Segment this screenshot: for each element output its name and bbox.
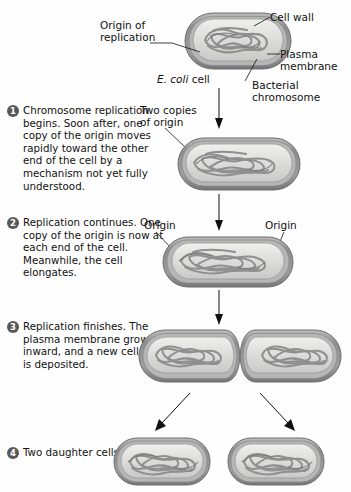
arrow-stage2-to-stage3 [212, 194, 226, 232]
label-ecoli-roman: cell [188, 73, 209, 85]
arrow-to-daughter-left [152, 392, 192, 434]
cell-daughter-right [226, 436, 326, 488]
cell-stage-3 [161, 234, 295, 290]
cell-stage-2 [176, 135, 302, 193]
label-bacterial-chromosome: Bacterial chromosome [252, 79, 320, 103]
leader-plasma-membrane [266, 50, 282, 58]
cell-daughter-left [112, 436, 212, 488]
step-2-number: 2 [7, 217, 19, 229]
label-plasma-membrane: Plasma membrane [280, 48, 337, 72]
step-2: 2 Replication continues. One copy of the… [7, 216, 167, 279]
step-4-number: 4 [7, 447, 19, 459]
leader-cell-wall [252, 15, 272, 29]
arrow-stage1-to-stage2 [212, 88, 226, 130]
leader-bacterial-chromosome [244, 57, 260, 83]
label-origin-right: Origin [265, 219, 297, 231]
leader-origin-of-replication [150, 40, 202, 54]
label-cell-wall: Cell wall [270, 11, 314, 23]
arrow-to-daughter-right [258, 392, 298, 434]
step-3-number: 3 [7, 321, 19, 333]
label-ecoli-cell: E. coli cell [157, 73, 210, 85]
step-1-number: 1 [7, 105, 19, 117]
cell-stage-4-dividing [136, 326, 344, 388]
arrow-stage3-to-stage4 [212, 290, 226, 326]
label-origin-left: Origin [144, 219, 176, 231]
label-ecoli-italic: E. coli [157, 73, 188, 85]
figure-canvas: Origin of replication Cell wall Plasma m… [0, 0, 351, 492]
label-two-copies-of-origin: Two copies of origin [140, 104, 197, 128]
label-origin-of-replication: Origin of replication [100, 19, 155, 43]
